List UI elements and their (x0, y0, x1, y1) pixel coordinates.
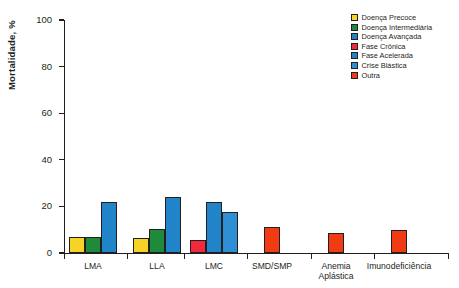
bar (391, 230, 407, 253)
x-tick-mark (448, 254, 449, 259)
y-tick-label: 80 (0, 62, 52, 72)
legend-swatch-icon (351, 14, 358, 21)
legend-label: Doença Precoce (362, 13, 417, 22)
chart-figure: Mortalidade, % 020406080100 LMALLALMCSMD… (0, 0, 459, 288)
bar (149, 229, 165, 253)
y-tick-label: 100 (0, 15, 52, 25)
chart-legend: Doença PrecoceDoença IntermediáriaDoença… (351, 13, 432, 80)
x-tick-mark (247, 254, 248, 259)
legend-item[interactable]: Fase Crônica (351, 42, 432, 51)
x-tick-mark (64, 254, 65, 259)
y-tick-label: 20 (0, 201, 52, 211)
legend-item[interactable]: Fase Acelerada (351, 51, 432, 60)
legend-swatch-icon (351, 72, 358, 79)
legend-label: Crise Blástica (362, 61, 407, 70)
x-axis-category-label: Imunodeficiência (359, 261, 439, 271)
x-tick-mark (184, 254, 185, 259)
y-tick-label: 40 (0, 155, 52, 165)
bar (69, 237, 85, 253)
y-tick-label: 0 (0, 248, 52, 258)
legend-label: Fase Acelerada (362, 51, 413, 60)
bar (133, 238, 149, 253)
bar (85, 237, 101, 253)
legend-label: Outra (362, 71, 380, 80)
legend-swatch-icon (351, 43, 358, 50)
x-axis-line (64, 253, 449, 254)
legend-label: Doença Avançada (362, 32, 422, 41)
y-tick-label: 60 (0, 108, 52, 118)
legend-swatch-icon (351, 24, 358, 31)
legend-item[interactable]: Outra (351, 71, 432, 80)
legend-item[interactable]: Doença Precoce (351, 13, 432, 22)
legend-item[interactable]: Doença Intermediária (351, 23, 432, 32)
x-tick-mark (127, 254, 128, 259)
bar (264, 227, 280, 253)
bar (165, 197, 181, 253)
bar (190, 240, 206, 253)
x-tick-mark (311, 254, 312, 259)
bar (206, 202, 222, 253)
legend-swatch-icon (351, 62, 358, 69)
bar (328, 233, 344, 253)
x-tick-mark (374, 254, 375, 259)
legend-item[interactable]: Crise Blástica (351, 61, 432, 70)
legend-swatch-icon (351, 52, 358, 59)
y-axis-label: Mortalidade, % (6, 20, 17, 90)
legend-label: Fase Crônica (362, 42, 406, 51)
bar (222, 212, 238, 253)
bar (101, 202, 117, 253)
legend-item[interactable]: Doença Avançada (351, 32, 432, 41)
legend-label: Doença Intermediária (362, 23, 433, 32)
legend-swatch-icon (351, 33, 358, 40)
